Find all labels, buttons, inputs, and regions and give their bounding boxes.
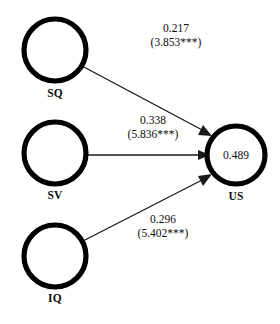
- node-circle-sv[interactable]: [24, 122, 86, 184]
- edge-tstat-iq-to-us: (5.402***): [138, 227, 189, 241]
- node-label-iq: IQ: [48, 292, 62, 304]
- diagram-graphics: [0, 0, 280, 324]
- node-label-us: US: [228, 190, 243, 202]
- edge-coefficient-iq-to-us: 0.296: [138, 213, 189, 227]
- edge-label-sv-to-us: 0.338 (5.836***): [128, 114, 179, 141]
- edge-iq-to-us-arrowhead: [198, 174, 212, 186]
- node-circle-sq[interactable]: [24, 19, 86, 81]
- path-diagram-canvas: 0.489 SQ SV IQ US 0.217 (3.853***) 0.338…: [0, 0, 280, 324]
- node-label-sv: SV: [47, 189, 62, 201]
- edge-sv-to-us: [87, 150, 210, 160]
- edge-label-iq-to-us: 0.296 (5.402***): [138, 213, 189, 240]
- edge-coefficient-sv-to-us: 0.338: [128, 114, 179, 128]
- edge-tstat-sq-to-us: (3.853***): [151, 36, 202, 50]
- node-value-us: 0.489: [223, 149, 249, 161]
- edge-tstat-sv-to-us: (5.836***): [128, 128, 179, 142]
- node-circle-iq[interactable]: [24, 225, 86, 287]
- node-label-sq: SQ: [47, 87, 63, 99]
- edge-coefficient-sq-to-us: 0.217: [151, 22, 202, 36]
- edge-label-sq-to-us: 0.217 (3.853***): [151, 22, 202, 49]
- edge-sq-to-us-arrowhead: [198, 125, 212, 136]
